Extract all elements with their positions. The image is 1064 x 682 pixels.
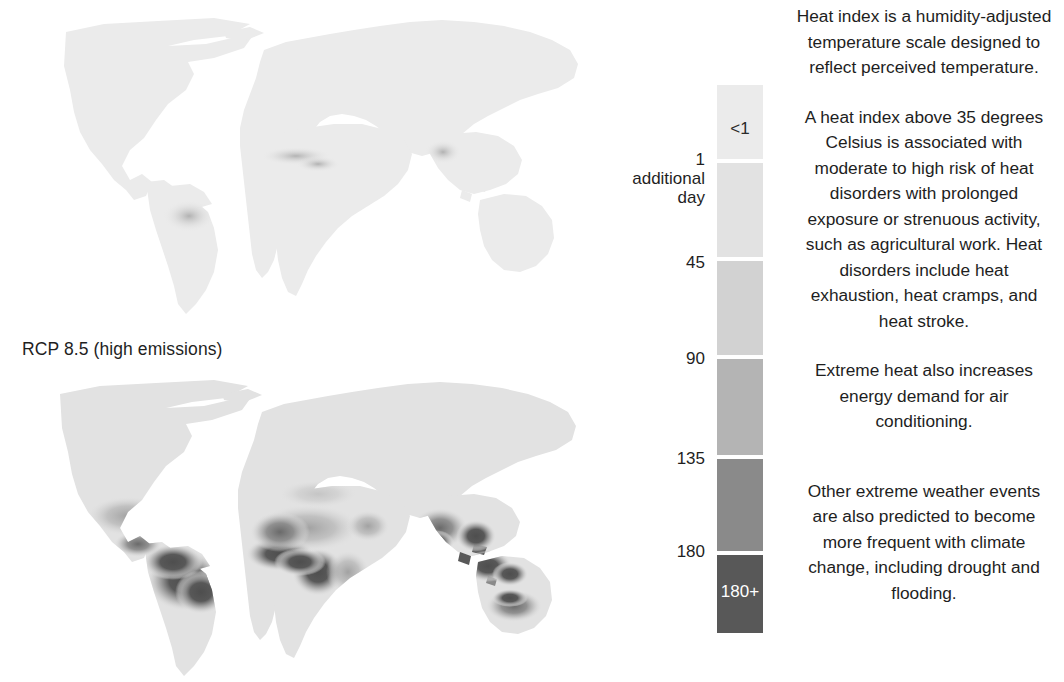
map-baseline [18, 4, 618, 334]
paragraph-other-extreme-weather: Other extreme weather events are also pr… [795, 479, 1053, 607]
paragraph-energy-demand: Extreme heat also increases energy deman… [795, 358, 1053, 435]
legend-title-line-2: additional [555, 169, 705, 188]
figure-root: RCP 8.5 (high emissions) [0, 0, 1064, 682]
legend-tick-45: 45 [555, 253, 705, 272]
legend-band-180plus: 180+ [717, 555, 763, 633]
legend-title-block: 1 additional day [555, 150, 705, 207]
paragraph-heat-index-definition: Heat index is a humidity-adjusted temper… [795, 4, 1053, 81]
map-rcp85-label: RCP 8.5 (high emissions) [22, 339, 223, 360]
legend-swatch-45-90 [717, 261, 763, 355]
map-baseline-svg [18, 4, 618, 334]
legend-band-45-90 [717, 261, 763, 355]
legend-tick-135: 135 [555, 449, 705, 468]
legend-tick-90: 90 [555, 349, 705, 368]
legend-colorbar: <1 180+ [717, 85, 763, 633]
legend-swatch-135-180 [717, 459, 763, 551]
legend-swatch-1-45 [717, 163, 763, 257]
legend-title-line-3: day [555, 188, 705, 207]
legend-cap-180plus: 180+ [717, 583, 763, 600]
legend-swatch-90-135 [717, 359, 763, 455]
legend-tick-stack: 1 additional day 45 90 135 180 [545, 85, 705, 645]
legend-tick-180: 180 [555, 542, 705, 561]
paragraph-heat-disorders: A heat index above 35 degrees Celsius is… [795, 105, 1053, 335]
legend-band-lt1: <1 [717, 85, 763, 159]
map-rcp85-svg [18, 376, 618, 678]
legend-cap-lt1: <1 [717, 120, 763, 137]
legend-band-135-180 [717, 459, 763, 551]
map-rcp85 [18, 376, 618, 678]
explanatory-text-column: Heat index is a humidity-adjusted temper… [795, 4, 1053, 606]
legend-title-line-1: 1 [555, 150, 705, 169]
legend-band-1-45 [717, 163, 763, 257]
legend-band-90-135 [717, 359, 763, 455]
